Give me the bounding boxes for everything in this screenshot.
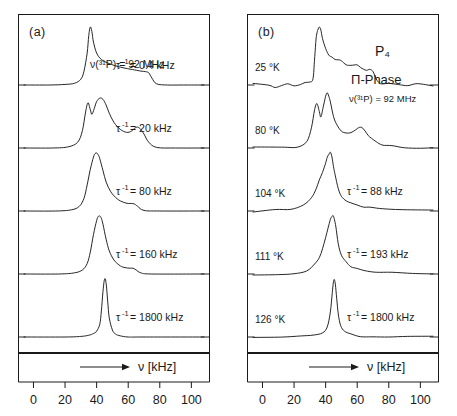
svg-text:= 193 kHz: = 193 kHz [361, 248, 409, 260]
svg-text:-1: -1 [122, 309, 129, 318]
svg-text:-1: -1 [122, 120, 129, 129]
temperature-label: 126 °K [255, 314, 285, 325]
panel-tag: (a) [29, 25, 46, 39]
svg-text:= 0.4 kHz: = 0.4 kHz [130, 59, 175, 71]
svg-text:-1: -1 [122, 183, 129, 192]
temperature-label: 111 °K [255, 251, 284, 262]
svg-text:-1: -1 [353, 183, 360, 192]
x-tick-label: 20 [287, 393, 301, 407]
svg-text:= 80 kHz: = 80 kHz [130, 185, 172, 197]
x-tick-label: 40 [319, 393, 333, 407]
panel-a: (a)ν(³¹P) = 92 MHzτ-1= 0.4 kHzτ-1= 20 kH… [18, 14, 210, 354]
x-tick-label: 60 [121, 393, 135, 407]
svg-text:= 1800 kHz: = 1800 kHz [130, 311, 183, 323]
x-tick-label: 80 [153, 393, 167, 407]
temperature-label: 80 °K [255, 125, 280, 136]
svg-text:= 88 kHz: = 88 kHz [361, 185, 403, 197]
x-tick-label: 40 [90, 393, 104, 407]
x-tick-label: 0 [30, 393, 37, 407]
panel-tag: (b) [258, 25, 275, 39]
panel-b-axis-line: ν [kHz]020406080100 [247, 352, 439, 414]
panel-b-plot: (b)P₄Π-Phaseν(³¹P) = 92 MHz25 °K80 °Kτ-1… [247, 14, 439, 354]
temperature-label: 25 °K [255, 62, 280, 73]
sample-title: P₄ [375, 43, 390, 59]
svg-text:= 160 kHz: = 160 kHz [130, 248, 178, 260]
panel-a-axis: ν [kHz]020406080100 [18, 352, 210, 414]
svg-text:= 1800 kHz: = 1800 kHz [361, 311, 414, 323]
panel-b: (b)P₄Π-Phaseν(³¹P) = 92 MHz25 °K80 °Kτ-1… [247, 14, 439, 354]
svg-text:= 20 kHz: = 20 kHz [130, 122, 172, 134]
svg-text:-1: -1 [353, 309, 360, 318]
x-tick-label: 100 [181, 393, 202, 407]
panel-b-frequency-note: ν(³¹P) = 92 MHz [349, 93, 417, 104]
panel-b-axis: ν [kHz]020406080100 [247, 352, 439, 414]
svg-text:-1: -1 [353, 246, 360, 255]
svg-text:-1: -1 [122, 246, 129, 255]
x-axis-title: ν [kHz] [138, 360, 176, 374]
svg-text:-1: -1 [122, 57, 129, 66]
nmr-lineshape-figure: (a)ν(³¹P) = 92 MHzτ-1= 0.4 kHzτ-1= 20 kH… [0, 0, 457, 416]
panel-a-plot: (a)ν(³¹P) = 92 MHzτ-1= 0.4 kHzτ-1= 20 kH… [18, 14, 210, 354]
temperature-label: 104 °K [255, 188, 285, 199]
x-tick-label: 80 [382, 393, 396, 407]
panel-a-axis-line: ν [kHz]020406080100 [18, 352, 210, 414]
x-tick-label: 60 [350, 393, 364, 407]
x-tick-label: 0 [259, 393, 266, 407]
x-axis-title: ν [kHz] [367, 360, 405, 374]
x-tick-label: 100 [410, 393, 431, 407]
x-tick-label: 20 [58, 393, 72, 407]
